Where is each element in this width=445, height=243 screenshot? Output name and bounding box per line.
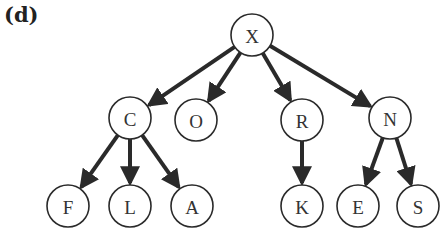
tree-node-C: C — [109, 97, 151, 139]
node-label: A — [185, 197, 199, 218]
edge-X-C — [149, 47, 235, 105]
node-label: O — [189, 111, 203, 132]
node-label: C — [124, 109, 137, 130]
tree-node-K: K — [281, 185, 323, 227]
edge-C-A — [142, 135, 179, 187]
node-label: R — [296, 111, 309, 132]
node-label: F — [63, 197, 74, 218]
node-label: K — [295, 197, 309, 218]
edge-N-E — [366, 138, 383, 185]
tree-diagram: XCORNFLAKES — [0, 0, 445, 243]
node-label: S — [413, 197, 424, 218]
edge-X-R — [263, 53, 291, 100]
tree-node-O: O — [175, 99, 217, 141]
node-label: L — [124, 197, 136, 218]
edge-C-F — [81, 135, 118, 187]
node-label: X — [245, 26, 259, 47]
tree-node-S: S — [397, 185, 439, 227]
tree-node-R: R — [281, 99, 323, 141]
edge-X-N — [270, 46, 370, 106]
tree-node-N: N — [369, 97, 411, 139]
tree-node-F: F — [47, 185, 89, 227]
tree-node-E: E — [337, 185, 379, 227]
node-label: E — [352, 197, 364, 218]
node-label: N — [383, 109, 397, 130]
tree-node-A: A — [171, 185, 213, 227]
tree-node-X: X — [231, 14, 273, 56]
nodes-layer: XCORNFLAKES — [47, 14, 439, 227]
tree-node-L: L — [109, 185, 151, 227]
edge-N-S — [396, 138, 411, 184]
